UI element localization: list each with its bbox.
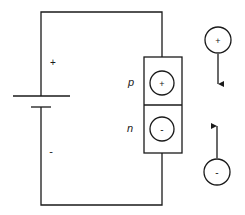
n-region-carrier-sign: - bbox=[160, 124, 163, 135]
hole-carrier: + bbox=[205, 27, 231, 84]
p-region-label: p bbox=[127, 76, 134, 88]
electron-sign: - bbox=[215, 167, 218, 178]
circuit-diagram: + - + p - n + - bbox=[0, 0, 245, 215]
hole-sign: + bbox=[215, 36, 220, 46]
electron-carrier: - bbox=[204, 126, 230, 185]
p-region-carrier-sign: + bbox=[159, 79, 164, 89]
n-region-label: n bbox=[127, 122, 133, 134]
battery-positive-label: + bbox=[50, 57, 56, 68]
p-region: + p bbox=[127, 71, 174, 95]
pn-junction: + p - n bbox=[127, 57, 182, 153]
n-region: - n bbox=[127, 117, 174, 141]
battery-negative-label: - bbox=[49, 145, 53, 157]
